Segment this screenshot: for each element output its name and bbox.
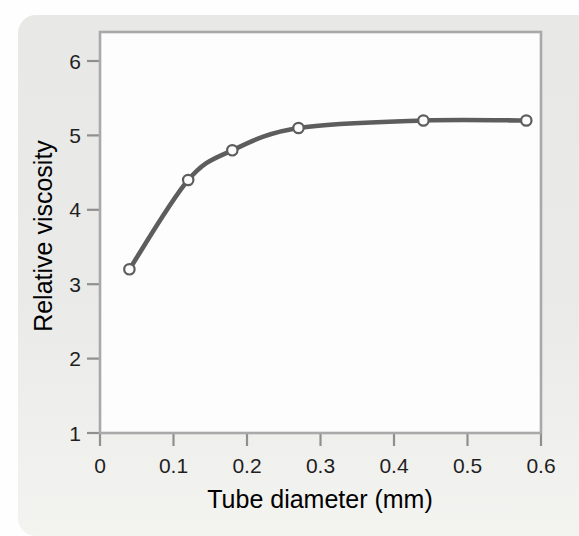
- y-tick-label: 1: [69, 422, 81, 445]
- y-tick-label: 3: [69, 273, 81, 296]
- x-tick-label: 0.2: [232, 454, 261, 477]
- data-point-marker: [183, 175, 193, 185]
- x-tick-label: 0.4: [379, 454, 409, 477]
- figure-page: 00.10.20.30.40.50.6 123456 Tube diameter…: [0, 0, 579, 536]
- viscosity-chart: 00.10.20.30.40.50.6 123456 Tube diameter…: [0, 0, 579, 536]
- y-tick-label: 5: [69, 124, 81, 147]
- x-tick-label: 0.3: [306, 454, 335, 477]
- data-point-marker: [521, 115, 531, 125]
- data-point-marker: [418, 115, 428, 125]
- y-axis-title: Relative viscosity: [29, 140, 57, 332]
- x-axis-title: Tube diameter (mm): [207, 485, 433, 513]
- plot-area: [100, 32, 541, 433]
- data-point-marker: [227, 145, 237, 155]
- x-tick-label: 0: [94, 454, 106, 477]
- data-point-marker: [124, 264, 134, 274]
- y-tick-label: 4: [69, 198, 81, 221]
- data-point-marker: [293, 123, 303, 133]
- x-axis-ticks: 00.10.20.30.40.50.6: [94, 434, 555, 477]
- x-tick-label: 0.5: [453, 454, 482, 477]
- y-axis-ticks: 123456: [69, 50, 99, 445]
- x-tick-label: 0.1: [159, 454, 188, 477]
- y-tick-label: 2: [69, 347, 81, 370]
- y-tick-label: 6: [69, 50, 81, 73]
- x-tick-label: 0.6: [526, 454, 555, 477]
